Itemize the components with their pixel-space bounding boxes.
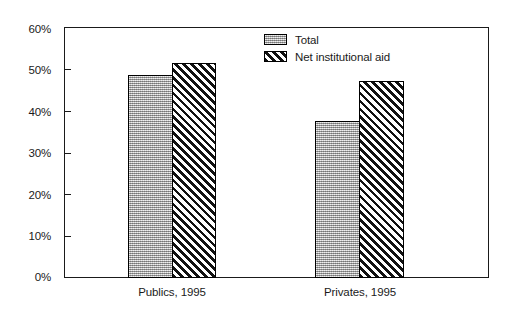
x-category-label-publics: Publics, 1995 bbox=[112, 286, 232, 299]
bar-privates-net-institutional-aid bbox=[359, 81, 404, 278]
bar-publics-total bbox=[128, 75, 173, 278]
chart-legend: Total Net institutional aid bbox=[264, 31, 390, 65]
bar-chart-figure: 60% 50% 40% 30% 20% 10% 0% Publics, 1995… bbox=[0, 0, 515, 316]
bars-layer bbox=[0, 0, 515, 316]
x-category-label-privates: Privates, 1995 bbox=[300, 286, 420, 299]
bar-publics-net-institutional-aid bbox=[172, 63, 216, 278]
legend-label-total: Total bbox=[295, 34, 319, 46]
legend-item-total: Total bbox=[264, 31, 390, 48]
legend-swatch-net-institutional-aid-icon bbox=[264, 51, 287, 62]
bar-privates-total bbox=[315, 121, 360, 278]
legend-label-net-institutional-aid: Net institutional aid bbox=[295, 51, 390, 63]
legend-item-net-institutional-aid: Net institutional aid bbox=[264, 48, 390, 65]
legend-swatch-total-icon bbox=[264, 34, 287, 45]
